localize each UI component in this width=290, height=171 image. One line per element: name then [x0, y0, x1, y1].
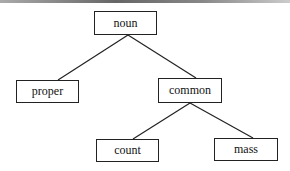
edge-noun-common — [128, 35, 196, 78]
node-mass-label: mass — [234, 142, 258, 157]
node-count-label: count — [114, 143, 141, 158]
node-proper-label: proper — [32, 84, 63, 99]
node-proper: proper — [16, 80, 79, 103]
node-common-label: common — [169, 83, 211, 98]
node-mass: mass — [214, 138, 278, 161]
node-count: count — [96, 139, 159, 162]
node-common: common — [158, 78, 222, 103]
edge-common-mass — [190, 103, 253, 138]
edge-common-count — [133, 103, 190, 139]
node-noun: noun — [94, 11, 157, 35]
node-noun-label: noun — [114, 16, 138, 31]
edge-noun-proper — [58, 35, 128, 80]
